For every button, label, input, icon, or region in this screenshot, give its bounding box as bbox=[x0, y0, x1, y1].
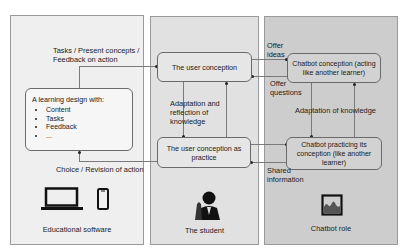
connector-line bbox=[79, 161, 157, 162]
educational-software-caption: Educational software bbox=[10, 225, 144, 234]
adaptation-knowledge-label: Adaptation of knowledge bbox=[295, 106, 376, 115]
smartphone-icon bbox=[97, 188, 109, 210]
adaptation-reflection-label-3: knowledge bbox=[170, 117, 205, 126]
user-conception-practice-box: The user conception as practice bbox=[157, 137, 251, 168]
connector-line bbox=[252, 59, 287, 60]
arrowhead-icon bbox=[353, 83, 356, 86]
laptop-icon bbox=[41, 187, 83, 211]
tasks-present-label: Tasks / Present concepts / bbox=[53, 46, 139, 55]
list-item: ... bbox=[46, 132, 126, 141]
student-caption: The student bbox=[150, 226, 259, 235]
offer-ideas-label-1: Offer bbox=[267, 41, 283, 50]
chatbot-practicing-box: Chatbot practicing its conception (like … bbox=[286, 137, 382, 170]
image-frame-icon bbox=[321, 194, 343, 216]
connector-line bbox=[79, 66, 80, 88]
learning-design-box: A learning design with: Content Tasks Fe… bbox=[25, 88, 133, 151]
connector-line bbox=[226, 82, 227, 137]
chatbot-practicing-text: Chatbot practicing its conception (like … bbox=[290, 140, 378, 167]
chatbot-conception-text: Chatbot conception (acting like another … bbox=[291, 59, 377, 77]
choice-revision-label: Choice / Revision of action bbox=[56, 165, 144, 174]
list-item: Content bbox=[46, 106, 126, 115]
offer-ideas-label-2: ideas bbox=[267, 50, 285, 59]
user-conception-practice-text: The user conception as practice bbox=[161, 144, 247, 162]
list-item: Tasks bbox=[46, 115, 126, 124]
user-conception-box: The user conception bbox=[157, 52, 252, 82]
chatbot-conception-box: Chatbot conception (acting like another … bbox=[287, 53, 381, 83]
connector-line bbox=[79, 66, 157, 67]
feedback-on-action-label: Feedback on action bbox=[53, 55, 118, 64]
shared-information-label-2: information bbox=[267, 175, 304, 184]
adaptation-reflection-label-1: Adaptation and bbox=[170, 99, 220, 108]
connector-line bbox=[251, 162, 287, 163]
learning-design-title: A learning design with: bbox=[32, 95, 126, 104]
offer-questions-label-1: Offer bbox=[270, 79, 286, 88]
connector-line bbox=[251, 144, 287, 145]
arrowhead-icon bbox=[78, 151, 81, 154]
arrowhead-icon bbox=[225, 82, 228, 85]
connector-line bbox=[252, 76, 287, 77]
chatbot-role-caption: Chatbot role bbox=[264, 224, 398, 233]
learning-design-list: Content Tasks Feedback ... bbox=[32, 106, 126, 140]
adaptation-reflection-label-2: reflection of bbox=[170, 108, 208, 117]
shared-information-label-1: Shared bbox=[267, 166, 291, 175]
student-icon bbox=[193, 190, 221, 220]
list-item: Feedback bbox=[46, 123, 126, 132]
user-conception-text: The user conception bbox=[172, 63, 237, 72]
offer-questions-label-2: questions bbox=[270, 88, 302, 97]
